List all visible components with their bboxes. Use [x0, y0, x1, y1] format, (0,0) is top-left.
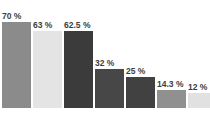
bar — [126, 77, 155, 108]
bar-group: 62.5 % — [64, 31, 93, 108]
bar-group: 12 % — [188, 93, 210, 108]
bar — [64, 31, 93, 108]
bar — [188, 93, 210, 108]
bar — [33, 31, 62, 108]
bar-value-label: 25 % — [126, 66, 172, 76]
bar-group: 70 % — [2, 22, 31, 108]
bar — [95, 69, 124, 108]
bar-value-label: 12 % — [188, 82, 210, 92]
bar-group: 32 % — [95, 69, 124, 108]
bar-chart: 70 %63 %62.5 %32 %25 %14.3 %12 % — [0, 0, 210, 122]
bar-group: 14.3 % — [157, 90, 186, 108]
bar — [2, 22, 31, 108]
bar-group: 25 % — [126, 77, 155, 108]
bar-value-label: 62.5 % — [64, 20, 110, 30]
bar-group: 63 % — [33, 31, 62, 108]
bar — [157, 90, 186, 108]
